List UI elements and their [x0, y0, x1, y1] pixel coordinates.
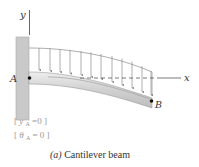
load-envelope [29, 48, 152, 72]
x-axis-label: x [184, 72, 190, 83]
fixed-wall [16, 37, 29, 120]
y-axis-label: y [19, 9, 26, 20]
svg-text:[ θ A = 0: [ θ A = 0 ] [14, 130, 50, 142]
point-a-label: A [9, 73, 17, 84]
figure-caption: (a) Cantilever beam [50, 149, 130, 161]
boundary-condition-thetaa: [ θ A = 0 ] [14, 130, 50, 142]
point-b [150, 99, 154, 103]
point-b-label: B [154, 99, 162, 110]
boundary-condition-ya: [ y A =0 ] [14, 116, 47, 128]
cantilever-diagram: y x A B [ y A =0 ] [0, 0, 199, 167]
svg-text:[ y A =0: [ y A =0 ] [14, 116, 47, 128]
point-a [28, 76, 32, 80]
beam [29, 72, 152, 108]
